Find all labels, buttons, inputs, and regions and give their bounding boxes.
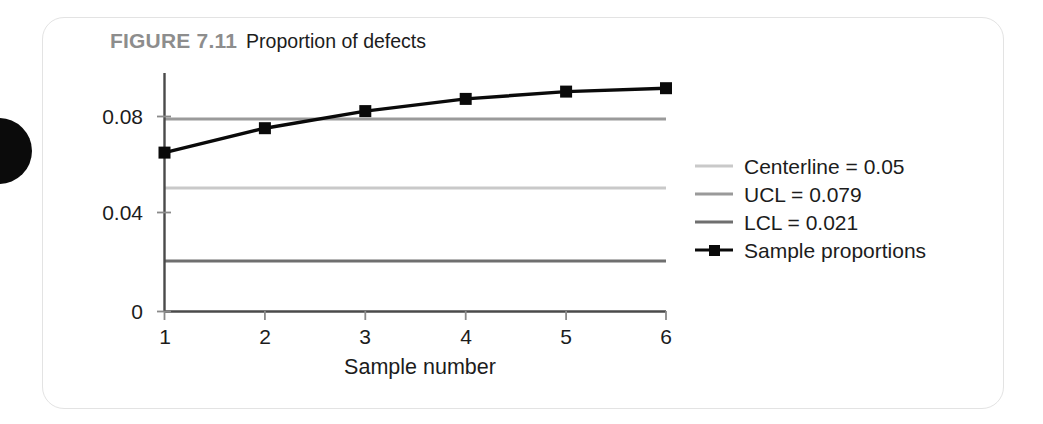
x-tick-label-2: 2 [245, 326, 285, 347]
chart-legend: Centerline = 0.05 UCL = 0.079 LCL = 0.02… [693, 152, 963, 264]
data-point-marker-5 [560, 86, 572, 98]
legend-label-centerline: Centerline = 0.05 [744, 156, 905, 177]
data-point-marker-1 [159, 147, 171, 159]
y-tick-label-0.08: 0.08 [63, 106, 143, 127]
data-point-marker-6 [660, 82, 672, 94]
reference-lines [164, 119, 666, 261]
chart-axes [157, 73, 666, 320]
data-point-marker-4 [460, 93, 472, 105]
data-point-marker-3 [359, 105, 371, 117]
x-axis-title: Sample number [300, 357, 540, 379]
ucl-line-swatch [693, 180, 735, 208]
x-tick-label-1: 1 [145, 326, 185, 347]
data-point-marker-2 [259, 122, 271, 134]
legend-item-centerline: Centerline = 0.05 [693, 152, 963, 180]
lcl-line-swatch [693, 208, 735, 236]
y-tick-label-0.04: 0.04 [63, 202, 143, 223]
legend-label-ucl: UCL = 0.079 [744, 184, 862, 205]
legend-label-lcl: LCL = 0.021 [744, 212, 858, 233]
y-tick-label-0: 0 [63, 301, 143, 322]
sample-proportions-swatch [693, 236, 735, 264]
legend-item-lcl: LCL = 0.021 [693, 208, 963, 236]
x-tick-label-5: 5 [546, 326, 586, 347]
square-marker-icon [709, 245, 720, 256]
legend-item-sample-proportions: Sample proportions [693, 236, 963, 264]
centerline-line-swatch [693, 152, 735, 180]
x-tick-label-6: 6 [646, 326, 686, 347]
legend-label-sample-proportions: Sample proportions [744, 240, 926, 261]
legend-item-ucl: UCL = 0.079 [693, 180, 963, 208]
x-tick-label-4: 4 [446, 326, 486, 347]
x-tick-label-3: 3 [345, 326, 385, 347]
